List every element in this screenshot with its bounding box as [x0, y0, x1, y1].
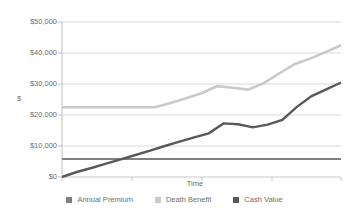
gridlines	[62, 22, 341, 146]
legend-swatch-icon	[66, 197, 72, 203]
series-line-cash-value	[62, 83, 341, 178]
chart-legend: Annual Premium Death Benefit Cash Value	[0, 195, 349, 204]
legend-item-cash-value[interactable]: Cash Value	[233, 195, 282, 204]
line-chart: $50,000 $40,000 $30,000 $20,000 $10,000 …	[0, 0, 349, 223]
plot-area	[0, 0, 349, 223]
legend-label: Cash Value	[244, 195, 282, 204]
x-axis-title: Time	[160, 179, 230, 188]
legend-item-death-benefit[interactable]: Death Benefit	[155, 195, 211, 204]
legend-swatch-icon	[155, 197, 161, 203]
legend-label: Death Benefit	[166, 195, 211, 204]
legend-item-annual-premium[interactable]: Annual Premium	[66, 195, 132, 204]
legend-label: Annual Premium	[77, 195, 132, 204]
legend-swatch-icon	[233, 197, 239, 203]
y-axis-line	[58, 22, 62, 177]
series-line-death-benefit	[62, 45, 341, 107]
